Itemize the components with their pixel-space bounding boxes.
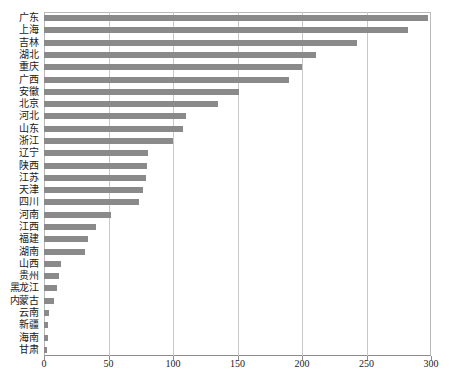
bar-row[interactable] (44, 37, 431, 49)
bar[interactable] (44, 113, 186, 119)
y-axis-label: 黑龙江 (10, 283, 39, 293)
bar[interactable] (44, 199, 139, 205)
bar-row[interactable] (44, 282, 431, 294)
bar-row[interactable] (44, 172, 431, 184)
bar-row[interactable] (44, 270, 431, 282)
y-axis-label: 上海 (19, 25, 39, 35)
x-axis-tick-mark (44, 356, 45, 360)
bar[interactable] (44, 89, 239, 95)
y-axis-label: 湖北 (19, 50, 39, 60)
bar[interactable] (44, 285, 57, 291)
y-axis-label: 湖南 (19, 247, 39, 257)
y-axis-label: 北京 (19, 99, 39, 109)
bar[interactable] (44, 64, 302, 70)
bar[interactable] (44, 126, 183, 132)
bar-row[interactable] (44, 12, 431, 24)
bar[interactable] (44, 298, 54, 304)
bar-row[interactable] (44, 61, 431, 73)
bar-row[interactable] (44, 331, 431, 343)
bar[interactable] (44, 224, 96, 230)
y-axis-label: 河南 (19, 210, 39, 220)
bar-row[interactable] (44, 344, 431, 356)
x-axis-tick-mark (302, 356, 303, 360)
y-axis-label: 广西 (19, 75, 39, 85)
bar-row[interactable] (44, 123, 431, 135)
bar-row[interactable] (44, 49, 431, 61)
bar-row[interactable] (44, 184, 431, 196)
plot-area (44, 12, 431, 356)
bar[interactable] (44, 163, 147, 169)
bars-layer (44, 12, 431, 356)
x-axis-tick-mark (238, 356, 239, 360)
bar[interactable] (44, 77, 289, 83)
bar-row[interactable] (44, 86, 431, 98)
bar[interactable] (44, 322, 48, 328)
bar-row[interactable] (44, 147, 431, 159)
y-axis-label: 云南 (19, 308, 39, 318)
y-axis-label: 山西 (19, 259, 39, 269)
y-axis-label: 河北 (19, 111, 39, 121)
bar-row[interactable] (44, 233, 431, 245)
bar[interactable] (44, 101, 218, 107)
y-axis-label: 内蒙古 (10, 296, 39, 306)
x-axis-tick-mark (367, 356, 368, 360)
y-axis-label: 天津 (19, 185, 39, 195)
x-axis-tick-mark (173, 356, 174, 360)
y-axis-label: 吉林 (19, 38, 39, 48)
bar-row[interactable] (44, 295, 431, 307)
bar-row[interactable] (44, 319, 431, 331)
bar-row[interactable] (44, 98, 431, 110)
bar[interactable] (44, 236, 88, 242)
bar-row[interactable] (44, 159, 431, 171)
y-axis-label: 贵州 (19, 271, 39, 281)
bar[interactable] (44, 138, 173, 144)
bar[interactable] (44, 249, 85, 255)
bar[interactable] (44, 261, 61, 267)
bar-row[interactable] (44, 307, 431, 319)
bar[interactable] (44, 175, 146, 181)
bar[interactable] (44, 150, 148, 156)
y-axis-label: 广东 (19, 13, 39, 23)
bar[interactable] (44, 40, 357, 46)
y-axis-label: 海南 (19, 333, 39, 343)
y-axis-label: 福建 (19, 234, 39, 244)
y-axis-label: 新疆 (19, 320, 39, 330)
bar-row[interactable] (44, 73, 431, 85)
bar[interactable] (44, 52, 316, 58)
bar[interactable] (44, 27, 408, 33)
bar-row[interactable] (44, 258, 431, 270)
x-axis-tick-mark (109, 356, 110, 360)
bar[interactable] (44, 15, 428, 21)
y-axis-label: 安徽 (19, 87, 39, 97)
bar[interactable] (44, 187, 143, 193)
y-axis-label: 陕西 (19, 161, 39, 171)
bar-row[interactable] (44, 245, 431, 257)
y-axis-label: 辽宁 (19, 148, 39, 158)
bar-row[interactable] (44, 196, 431, 208)
y-axis-label: 重庆 (19, 62, 39, 72)
bar-row[interactable] (44, 24, 431, 36)
y-axis-label: 江西 (19, 222, 39, 232)
y-axis-label: 四川 (19, 197, 39, 207)
bar-row[interactable] (44, 110, 431, 122)
bar[interactable] (44, 335, 48, 341)
bar[interactable] (44, 212, 111, 218)
x-axis-tick-labels: 050100150200250300 (0, 358, 449, 378)
bar-row[interactable] (44, 135, 431, 147)
bar[interactable] (44, 273, 59, 279)
bar[interactable] (44, 310, 49, 316)
x-axis-tick-mark (431, 356, 432, 360)
bar-row[interactable] (44, 209, 431, 221)
y-axis-category-labels: 广东上海吉林湖北重庆广西安徽北京河北山东浙江辽宁陕西江苏天津四川河南江西福建湖南… (0, 12, 42, 356)
y-axis-label: 山东 (19, 124, 39, 134)
bar-chart: 广东上海吉林湖北重庆广西安徽北京河北山东浙江辽宁陕西江苏天津四川河南江西福建湖南… (0, 0, 449, 389)
y-axis-label: 浙江 (19, 136, 39, 146)
y-axis-label: 甘肃 (19, 345, 39, 355)
y-axis-label: 江苏 (19, 173, 39, 183)
bar-row[interactable] (44, 221, 431, 233)
bar[interactable] (44, 347, 47, 353)
